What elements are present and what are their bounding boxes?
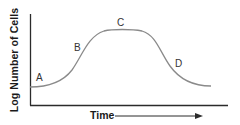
- phase-label-a: A: [36, 73, 43, 83]
- phase-label-b: B: [74, 43, 81, 53]
- phase-label-d: D: [175, 59, 182, 69]
- y-axis-label: Log Number of Cells: [8, 8, 20, 113]
- x-axis-label: Time: [90, 109, 114, 121]
- growth-curve-line: [30, 30, 211, 88]
- phase-label-c: C: [117, 18, 124, 28]
- right-arrow-icon: [195, 113, 203, 119]
- growth-curve-diagram: Log Number of Cells Time A B C D: [0, 0, 240, 125]
